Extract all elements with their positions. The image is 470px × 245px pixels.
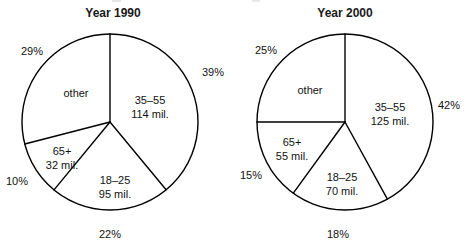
percent-label-18-25-2000: 18% bbox=[327, 228, 349, 240]
top-clipped-artifact-left bbox=[112, 0, 121, 2]
slice-label-35-55-2000: 35–55 bbox=[375, 101, 406, 113]
pie-chart-figure: Year 1990 35–55 114 mil. 18–25 95 mil. 6… bbox=[0, 0, 470, 245]
percent-label-other-2000: 25% bbox=[255, 44, 277, 56]
chart-title-1990: Year 1990 bbox=[85, 6, 141, 20]
slice-count-65plus-2000: 55 mil. bbox=[276, 150, 308, 162]
top-clipped-artifact-right bbox=[252, 0, 260, 2]
slice-count-35-55-2000: 125 mil. bbox=[371, 115, 410, 127]
percent-label-35-55-1990: 39% bbox=[202, 66, 224, 78]
percent-label-35-55-2000: 42% bbox=[438, 99, 460, 111]
slice-label-65plus-2000: 65+ bbox=[283, 136, 302, 148]
percent-label-65plus-2000: 15% bbox=[240, 169, 262, 181]
slice-label-other-1990: other bbox=[63, 87, 88, 99]
slice-count-35-55-1990: 114 mil. bbox=[131, 108, 169, 120]
slice-label-65plus-1990: 65+ bbox=[53, 145, 72, 157]
percent-label-other-1990: 29% bbox=[21, 45, 43, 57]
slice-label-35-55-1990: 35–55 bbox=[135, 94, 166, 106]
percent-label-18-25-1990: 22% bbox=[99, 228, 121, 240]
slice-label-18-25-2000: 18–25 bbox=[327, 171, 358, 183]
percent-label-65plus-1990: 10% bbox=[6, 175, 28, 187]
chart-title-2000: Year 2000 bbox=[317, 6, 373, 20]
slice-label-other-2000: other bbox=[297, 84, 322, 96]
slice-count-65plus-1990: 32 mil. bbox=[46, 159, 78, 171]
slice-label-18-25-1990: 18–25 bbox=[100, 174, 131, 186]
slice-count-18-25-2000: 70 mil. bbox=[326, 185, 358, 197]
slice-count-18-25-1990: 95 mil. bbox=[99, 188, 131, 200]
